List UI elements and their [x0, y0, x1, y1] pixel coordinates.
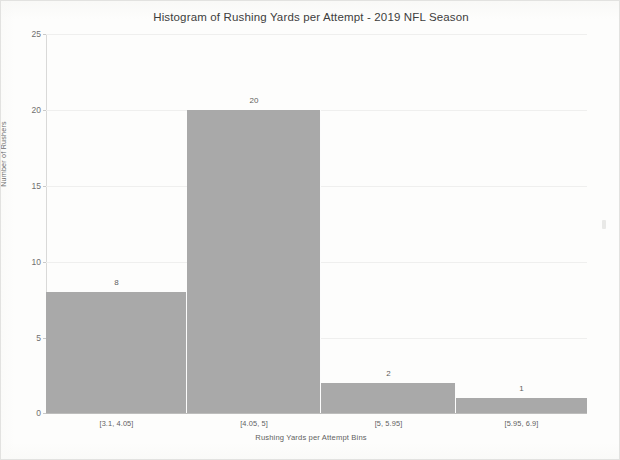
y-tick-label-25: 25 — [1, 29, 41, 39]
chart-title: Histogram of Rushing Yards per Attempt -… — [1, 11, 620, 23]
x-axis-spine — [46, 413, 587, 414]
plot-area: 8 20 2 1 — [46, 34, 587, 413]
scan-artifact-mark — [602, 220, 606, 229]
bar-bin-2[interactable] — [187, 110, 321, 413]
y-axis-label: Number of Rushers — [0, 94, 8, 214]
gridline-25 — [46, 34, 587, 35]
bar-value-1: 8 — [46, 278, 187, 287]
bar-value-2: 20 — [187, 96, 321, 105]
x-bin-label-2: [4.05, 5] — [187, 419, 321, 428]
x-bin-label-4: [5.95, 6.9] — [456, 419, 587, 428]
x-bin-label-1: [3.1, 4.05] — [46, 419, 187, 428]
x-axis-label: Rushing Yards per Attempt Bins — [1, 433, 620, 442]
bar-bin-3[interactable] — [321, 383, 456, 413]
bar-value-3: 2 — [321, 369, 456, 378]
bar-bin-4[interactable] — [456, 398, 587, 413]
y-tick-label-0: 0 — [1, 408, 41, 418]
y-tick-label-10: 10 — [1, 257, 41, 267]
y-tick-label-5: 5 — [1, 333, 41, 343]
chart-page: Histogram of Rushing Yards per Attempt -… — [0, 0, 620, 460]
x-bin-label-3: [5, 5.95] — [321, 419, 456, 428]
bar-value-4: 1 — [456, 384, 587, 393]
bar-bin-1[interactable] — [46, 292, 187, 413]
